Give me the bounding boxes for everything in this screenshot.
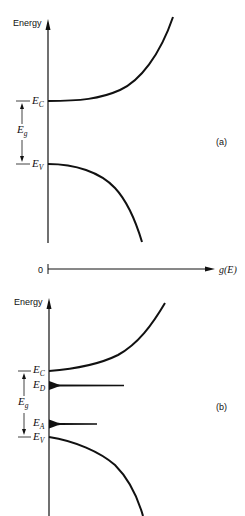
ev-label-b: EV <box>32 430 46 445</box>
ed-label-b: ED <box>32 378 46 393</box>
ec-label-a: EC <box>31 94 45 109</box>
arrow-up-icon <box>47 298 52 309</box>
density-of-states-diagram: Energy EC EV Eg (a) 0 g(E) Energy <box>0 0 245 516</box>
g-e-axis: 0 g(E) <box>38 264 237 276</box>
donor-level-spike <box>49 381 124 390</box>
acceptor-level-spike <box>49 420 97 429</box>
ev-label-a: EV <box>31 157 45 172</box>
conduction-band-curve-b <box>49 303 165 371</box>
arrow-up-icon <box>46 19 51 30</box>
ea-label-b: EA <box>32 416 45 431</box>
arrow-down-icon <box>20 156 24 162</box>
panel-tag-a: (a) <box>216 137 227 147</box>
arrow-up-icon <box>20 103 24 109</box>
x-axis-label: g(E) <box>219 264 237 276</box>
panel-a: Energy EC EV Eg (a) <box>13 17 227 243</box>
x-axis-origin-label: 0 <box>38 265 43 275</box>
panel-b: Energy EC ED EA EV Eg (b) <box>14 297 227 516</box>
energy-axis-label-a: Energy <box>13 18 42 28</box>
conduction-band-curve-a <box>48 17 173 101</box>
energy-axis-label-b: Energy <box>14 297 43 307</box>
arrow-down-icon <box>22 429 26 435</box>
panel-tag-b: (b) <box>216 402 227 412</box>
ec-label-b: EC <box>32 363 46 378</box>
valence-band-curve-b <box>49 437 143 516</box>
arrow-up-icon <box>22 373 26 379</box>
valence-band-curve-a <box>48 164 142 242</box>
arrow-right-icon <box>205 267 215 272</box>
